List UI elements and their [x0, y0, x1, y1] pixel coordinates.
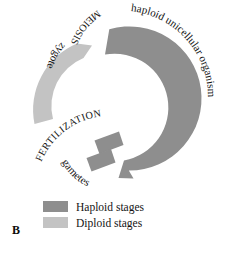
label-meiosis-text: MEIOSIS: [69, 8, 103, 47]
haploid-organism-arc: [105, 26, 202, 178]
legend-item-haploid: Haploid stages: [43, 201, 145, 214]
stage-gametes: [87, 132, 124, 172]
legend-swatch-haploid: [43, 201, 68, 212]
label-gametes: gametes: [60, 157, 92, 189]
life-cycle-diagram: haploid unicellular organism MEIOSIS zyg…: [0, 0, 242, 255]
stage-haploid-unicellular-organism: [105, 26, 202, 178]
label-meiosis: MEIOSIS: [69, 8, 103, 47]
panel-letter: B: [12, 223, 20, 237]
legend-label-haploid: Haploid stages: [76, 201, 145, 214]
legend-swatch-diploid: [43, 217, 68, 228]
legend-item-diploid: Diploid stages: [43, 217, 143, 230]
legend: Haploid stages Diploid stages: [43, 201, 145, 230]
legend-label-diploid: Diploid stages: [76, 217, 143, 230]
label-gametes-text: gametes: [60, 157, 92, 189]
